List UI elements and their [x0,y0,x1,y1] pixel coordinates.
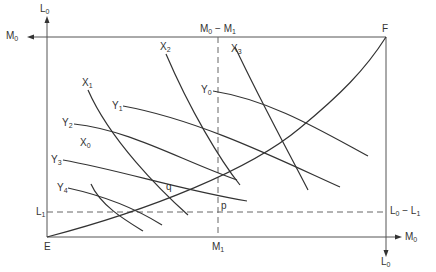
label-m0-m1: M0 − M1 [200,24,236,35]
label-q: q [166,182,172,192]
isoquant-y2 [74,124,237,180]
label-y3: Y3 [51,155,62,166]
label-l1: L1 [36,207,45,218]
label-y1: Y1 [112,101,123,112]
isoquant-y3 [63,160,247,201]
arrow-right-icon [395,235,402,240]
label-l0-l1: L0 − L1 [390,206,420,217]
arrow-up-icon [45,16,50,23]
label-x3: X3 [231,44,242,55]
label-f: F [382,24,388,34]
isoquant-y0 [213,91,368,156]
label-x2: X2 [160,42,171,53]
isoquant-x0 [91,184,143,231]
label-y4: Y4 [57,183,68,194]
contract-curve [47,37,386,237]
edgeworth-box-diagram [0,0,436,272]
label-x1: X1 [82,78,93,89]
arrow-left-icon [27,35,34,40]
label-m0-left: M0 [6,31,18,42]
label-l0-top: L0 [40,4,49,15]
label-y0: Y0 [201,85,212,96]
label-m0-right: M0 [405,232,417,243]
label-e: E [44,242,51,252]
label-p: p [221,201,227,211]
label-m1: M1 [212,242,224,253]
label-y2: Y2 [62,118,73,129]
label-x0: X0 [80,138,91,149]
label-l0-bottom: L0 [381,257,390,268]
